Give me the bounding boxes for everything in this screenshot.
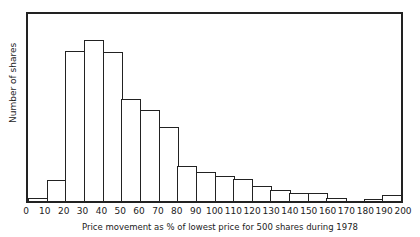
histogram-bar — [326, 198, 346, 201]
histogram-bar — [84, 40, 104, 201]
histogram-bar — [103, 52, 123, 201]
x-tick-label: 120 — [244, 206, 261, 216]
plot-area — [26, 12, 403, 203]
x-tick-label: 200 — [394, 206, 411, 216]
x-tick-label: 150 — [300, 206, 317, 216]
histogram-bar — [47, 180, 67, 201]
x-tick-label: 20 — [58, 206, 69, 216]
x-tick-label: 40 — [96, 206, 107, 216]
histogram-bar — [252, 186, 272, 201]
x-tick-label: 10 — [39, 206, 50, 216]
histogram-bar — [65, 51, 85, 201]
histogram-bar — [28, 198, 48, 201]
x-tick-label: 50 — [115, 206, 126, 216]
x-tick-label: 60 — [133, 206, 144, 216]
histogram-bar — [308, 193, 328, 201]
histogram-bar — [289, 193, 309, 201]
x-tick-label: 0 — [23, 206, 29, 216]
x-tick-label: 190 — [376, 206, 393, 216]
x-tick-label: 110 — [225, 206, 242, 216]
histogram-bar — [159, 127, 179, 201]
histogram-bar — [215, 176, 235, 201]
histogram-bar — [196, 172, 216, 201]
x-tick-label: 170 — [338, 206, 355, 216]
histogram-bar — [177, 166, 197, 201]
x-tick-label: 80 — [171, 206, 182, 216]
x-tick-label: 180 — [357, 206, 374, 216]
histogram-bar — [382, 195, 402, 201]
histogram-bar — [233, 179, 253, 201]
histogram-bar — [270, 190, 290, 201]
x-tick-label: 70 — [152, 206, 163, 216]
histogram-bar — [140, 110, 160, 201]
x-tick-label: 100 — [206, 206, 223, 216]
x-tick-label: 160 — [319, 206, 336, 216]
histogram-bar — [121, 99, 141, 201]
x-tick-label: 30 — [77, 206, 88, 216]
x-tick-label: 140 — [281, 206, 298, 216]
x-tick-label: 130 — [262, 206, 279, 216]
histogram-bar — [364, 199, 384, 201]
x-axis-label: Price movement as % of lowest price for … — [0, 222, 420, 232]
y-axis-label: Number of shares — [8, 93, 18, 123]
x-tick-label: 90 — [190, 206, 201, 216]
